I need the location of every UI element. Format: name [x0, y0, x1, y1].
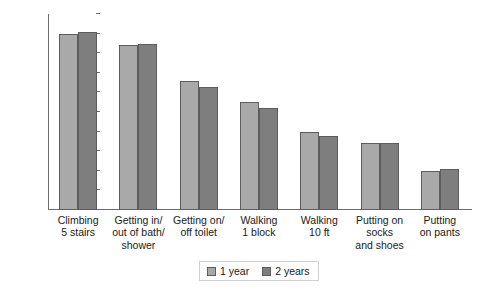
bar-series-2-years: [199, 87, 218, 210]
bar-series-2-years: [319, 136, 338, 210]
bar-series-2-years: [440, 169, 459, 210]
bar-groups: [48, 14, 470, 210]
bar-group: [357, 14, 403, 210]
bar-series-2-years: [380, 143, 399, 210]
bar-group: [55, 14, 101, 210]
x-axis-category-labels: Climbing 5 stairsGetting in/ out of bath…: [48, 214, 472, 260]
bar-series-1-year: [240, 102, 259, 210]
legend-label-2-years: 2 years: [275, 265, 309, 277]
bar-series-2-years: [78, 32, 97, 210]
bar-series-2-years: [259, 108, 278, 210]
chart-legend: 1 year 2 years: [199, 261, 319, 281]
bar-group: [236, 14, 282, 210]
legend-label-1-year: 1 year: [220, 265, 249, 277]
bar-series-1-year: [59, 34, 78, 210]
bar-group: [417, 14, 463, 210]
legend-swatch-icon-2-years: [262, 267, 271, 276]
legend-item-2-years: 2 years: [262, 265, 309, 277]
bar-series-1-year: [119, 45, 138, 210]
bar-group: [296, 14, 342, 210]
bar-series-1-year: [180, 81, 199, 210]
legend-item-1-year: 1 year: [207, 265, 249, 277]
bar-chart: 0102030405060708090100 Climbing 5 stairs…: [0, 0, 488, 297]
bar-series-1-year: [421, 171, 440, 210]
bar-series-1-year: [300, 132, 319, 210]
legend-swatch-icon-1-year: [207, 267, 216, 276]
bar-group: [115, 14, 161, 210]
bar-series-2-years: [138, 44, 157, 210]
bar-group: [176, 14, 222, 210]
bar-series-1-year: [361, 143, 380, 210]
category-label: Putting on pants: [404, 214, 476, 239]
